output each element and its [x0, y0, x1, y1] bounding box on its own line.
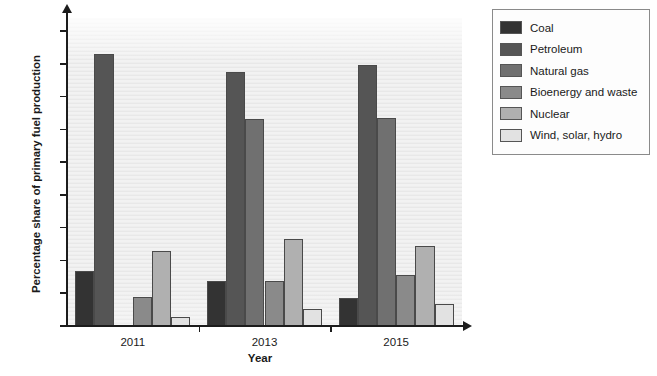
legend-label: Bioenergy and waste — [530, 86, 637, 98]
chart-figure: Percentage share of primary fuel product… — [0, 0, 657, 376]
bar — [377, 118, 396, 326]
y-axis-tick — [60, 30, 67, 32]
y-axis-tick — [60, 63, 67, 65]
legend-swatch — [500, 43, 522, 56]
bar — [396, 275, 415, 326]
x-axis-tick — [330, 325, 332, 332]
y-axis-tick — [60, 194, 67, 196]
y-axis-tick — [60, 292, 67, 294]
legend-label: Wind, solar, hydro — [530, 129, 622, 141]
bar — [358, 65, 377, 326]
plot-wrapper: Percentage share of primary fuel product… — [0, 0, 480, 376]
bar — [245, 119, 264, 326]
bar — [435, 304, 454, 326]
bar — [303, 309, 322, 326]
bars-layer — [67, 18, 462, 326]
legend-item: Coal — [500, 17, 643, 39]
x-axis-arrow-icon — [463, 321, 472, 331]
y-axis-title: Percentage share of primary fuel product… — [30, 34, 42, 314]
legend-swatch — [500, 86, 522, 99]
legend-swatch — [500, 129, 522, 142]
bar — [339, 298, 358, 326]
legend-label: Natural gas — [530, 65, 589, 77]
y-axis-tick — [60, 129, 67, 131]
legend-item: Bioenergy and waste — [500, 82, 643, 104]
x-axis-tick-label: 2015 — [361, 336, 431, 348]
x-axis-tick — [199, 325, 201, 332]
y-axis-tick — [60, 96, 67, 98]
bar — [207, 281, 226, 326]
legend-item: Nuclear — [500, 103, 643, 125]
legend-item: Natural gas — [500, 60, 643, 82]
y-axis-tick — [60, 227, 67, 229]
bar — [133, 297, 152, 326]
bar — [226, 72, 245, 326]
legend-label: Coal — [530, 22, 554, 34]
y-axis-line — [66, 12, 68, 326]
legend-item: Petroleum — [500, 39, 643, 61]
bar — [284, 239, 303, 326]
bar — [415, 246, 434, 326]
y-axis-arrow-icon — [62, 4, 72, 13]
legend: CoalPetroleumNatural gasBioenergy and wa… — [492, 9, 650, 155]
y-axis-tick — [60, 260, 67, 262]
legend-swatch — [500, 21, 522, 34]
bar — [265, 281, 284, 326]
x-axis-tick-label: 2011 — [98, 336, 168, 348]
x-axis-tick-label: 2013 — [230, 336, 300, 348]
legend-swatch — [500, 64, 522, 77]
bar — [94, 54, 113, 326]
x-axis-title: Year — [60, 352, 460, 364]
legend-swatch — [500, 107, 522, 120]
x-axis-line — [66, 325, 465, 327]
legend-item: Wind, solar, hydro — [500, 125, 643, 147]
bar — [75, 271, 94, 326]
bar — [152, 251, 171, 326]
y-axis-tick — [60, 161, 67, 163]
legend-label: Nuclear — [530, 108, 570, 120]
legend-label: Petroleum — [530, 43, 582, 55]
y-axis-tick — [60, 325, 67, 327]
